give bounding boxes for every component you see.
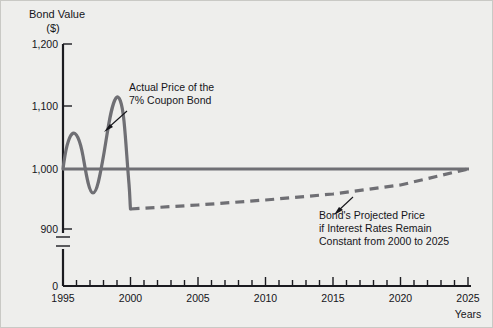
x-tick-label-1995: 1995 [51, 292, 75, 304]
y-tick-label-1100: 1,100 [32, 100, 58, 112]
series-projected-price [131, 169, 469, 209]
y-tick-label-1000: 1,000 [32, 163, 58, 175]
bond-value-chart: Bond Value ($) 1,200 1,100 1,000 900 0 [1, 1, 493, 328]
y-axis-title-line1: Bond Value [29, 8, 85, 20]
projected-price-annotation-line2: if Interest Rates Remain [319, 222, 432, 234]
x-tick-label-2025: 2025 [456, 292, 480, 304]
actual-price-annotation-line1: Actual Price of the [129, 81, 214, 93]
y-tick-label-900: 900 [40, 223, 58, 235]
actual-price-annotation-line2: 7% Coupon Bond [129, 94, 211, 106]
projected-price-annotation-line3: Constant from 2000 to 2025 [319, 235, 449, 247]
series-actual-price [63, 97, 131, 209]
x-tick-label-2015: 2015 [321, 292, 345, 304]
x-tick-label-2000: 2000 [119, 292, 143, 304]
y-tick-label-0: 0 [52, 280, 58, 292]
x-axis-major-ticks [63, 277, 468, 286]
x-tick-label-2020: 2020 [389, 292, 413, 304]
y-axis-title-line2: ($) [46, 22, 59, 34]
chart-figure: Bond Value ($) 1,200 1,100 1,000 900 0 [0, 0, 493, 328]
x-tick-label-2005: 2005 [186, 292, 210, 304]
x-tick-label-2010: 2010 [254, 292, 278, 304]
x-axis-title: Years [455, 308, 481, 320]
y-tick-label-1200: 1,200 [32, 38, 58, 50]
projected-price-annotation-line1: Bond's Projected Price [319, 209, 425, 221]
